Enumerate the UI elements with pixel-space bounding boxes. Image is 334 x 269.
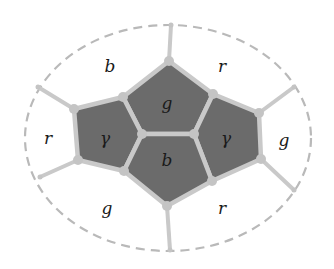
boundary-vertex [292, 188, 297, 193]
vertex-dot [73, 155, 83, 165]
boundary-vertex [169, 23, 174, 28]
boundary-vertex [36, 85, 41, 90]
vertex-dot [118, 92, 128, 102]
vertex-dot [137, 129, 147, 139]
edge-line [169, 25, 171, 61]
edge-line [261, 159, 294, 190]
vertex-dot [164, 56, 174, 66]
label-left: γ [100, 128, 111, 148]
edge-line [259, 87, 294, 113]
vertex-dot [189, 129, 199, 139]
coloring-diagram: gγγbbrrggr [0, 0, 334, 269]
vertex-dot [69, 104, 79, 114]
boundary-vertex [38, 175, 43, 180]
label-top-left: b [105, 56, 116, 76]
boundary-vertex [168, 248, 173, 253]
edge-line [40, 160, 78, 177]
vertex-dot [208, 89, 218, 99]
cell-bottom [124, 134, 212, 206]
edge-line [38, 87, 74, 109]
vertex-dot [162, 201, 172, 211]
label-left: r [44, 128, 53, 148]
boundary-vertex [292, 85, 297, 90]
edge-line [167, 206, 170, 250]
vertex-dot [254, 108, 264, 118]
label-right: g [279, 130, 290, 150]
label-bottom: b [162, 150, 173, 170]
label-right: γ [221, 128, 232, 148]
label-top-right: r [218, 56, 227, 76]
label-bottom-right: r [218, 198, 227, 218]
vertex-dot [207, 176, 217, 186]
label-top: g [162, 93, 173, 113]
vertex-dot [256, 154, 266, 164]
label-bottom-left: g [102, 198, 113, 218]
vertex-dot [119, 166, 129, 176]
